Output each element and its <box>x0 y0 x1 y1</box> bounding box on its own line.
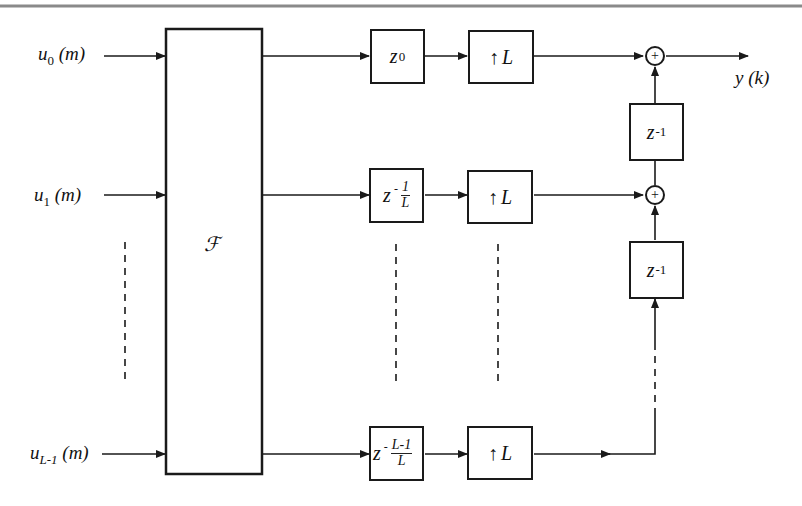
input-label-1-sub: 1 <box>44 194 51 209</box>
output-label-base: y <box>735 67 743 88</box>
delay-block-1-sign: - <box>394 182 398 197</box>
up-arrow-icon: ↑ <box>488 186 498 209</box>
input-label-0-base: u <box>38 43 48 64</box>
upsampler-block-1-factor: L <box>501 186 512 209</box>
input-label-last: uL-1 (m) <box>30 443 89 466</box>
output-label: y (k) <box>735 68 769 87</box>
delay-block-last-sign: - <box>384 440 388 455</box>
upsampler-block-last: ↑L <box>467 426 533 480</box>
plus-icon: + <box>651 188 659 202</box>
input-label-1-base: u <box>34 184 44 205</box>
input-label-last-base: u <box>30 442 40 463</box>
delay-block-1: z-1L <box>369 168 424 223</box>
unit-delay-lower-base: z <box>647 259 655 282</box>
input-label-1-arg: (m) <box>55 184 81 205</box>
delay-block-last-base: z <box>373 442 381 465</box>
summing-node-0: + <box>645 46 665 66</box>
summing-node-1: + <box>645 185 665 205</box>
unit-delay-lower: z-1 <box>629 241 684 299</box>
upsampler-block-0: ↑L <box>468 30 534 84</box>
plus-icon: + <box>651 49 659 63</box>
upsampler-block-0-factor: L <box>502 46 513 69</box>
output-label-arg: (k) <box>748 67 769 88</box>
unit-delay-upper-base: z <box>647 121 655 144</box>
delay-block-1-base: z <box>383 184 391 207</box>
input-label-1: u1 (m) <box>34 185 81 208</box>
unit-delay-upper: z-1 <box>629 103 684 161</box>
upsampler-block-last-factor: L <box>501 442 512 465</box>
unit-delay-lower-exp: -1 <box>655 262 666 278</box>
up-arrow-icon: ↑ <box>489 46 499 69</box>
input-label-last-sub: L-1 <box>40 452 58 467</box>
input-label-last-arg: (m) <box>58 442 89 463</box>
input-label-0-sub: 0 <box>48 53 55 68</box>
up-last-route <box>605 415 655 454</box>
delay-block-1-frac: 1L <box>401 180 410 210</box>
unit-delay-upper-exp: -1 <box>655 124 666 140</box>
delay-block-last: z-L-1L <box>369 426 424 481</box>
delay-block-0-base: z <box>390 45 398 68</box>
transform-label: ℱ <box>204 232 220 256</box>
input-label-0-arg: (m) <box>59 43 85 64</box>
upsampler-block-1: ↑L <box>467 170 533 224</box>
delay-block-0-exp: 0 <box>399 49 406 65</box>
input-label-0: u0 (m) <box>38 44 85 67</box>
delay-block-0: z0 <box>370 29 425 84</box>
delay-block-last-frac: L-1L <box>391 438 412 468</box>
up-arrow-icon: ↑ <box>488 442 498 465</box>
